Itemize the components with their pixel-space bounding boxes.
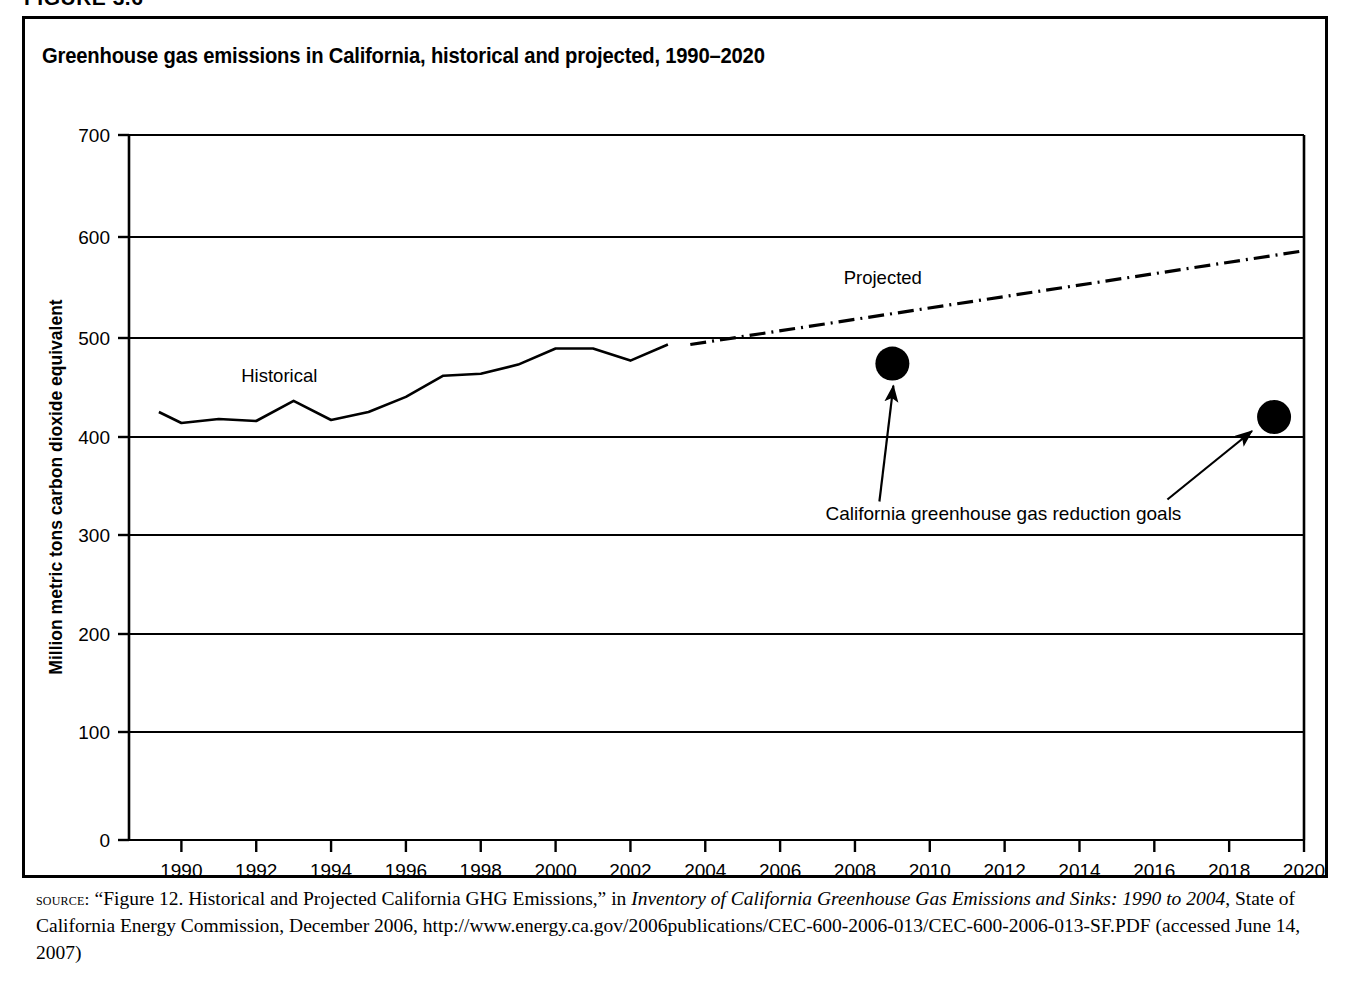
y-tick-label: 700: [78, 125, 110, 146]
y-tick-label: 500: [78, 328, 110, 349]
y-tick-label: 600: [78, 227, 110, 248]
goal-marker-2010: [875, 347, 909, 381]
y-tick-labels: 700 600 500 400 300 200 100 0: [78, 125, 110, 851]
y-tick-label: 100: [78, 722, 110, 743]
x-tick-label: 2002: [609, 860, 651, 881]
x-tick-label: 2004: [684, 860, 727, 881]
y-axis-title: Million metric tons carbon dioxide equiv…: [46, 299, 66, 675]
y-tick-label: 300: [78, 525, 110, 546]
x-tick-label: 1998: [460, 860, 502, 881]
chart-plot: Million metric tons carbon dioxide equiv…: [0, 0, 1352, 984]
x-tick-label: 2018: [1208, 860, 1250, 881]
series-projected-line: [690, 251, 1304, 345]
source-text-part1: “Figure 12. Historical and Projected Cal…: [90, 888, 632, 909]
series-historical-line: [159, 345, 668, 424]
goal-marker-2020: [1257, 400, 1291, 434]
x-tick-label: 2014: [1058, 860, 1101, 881]
series-label-historical: Historical: [241, 365, 317, 386]
y-tick-marks: [118, 135, 129, 840]
plot-frame: [129, 135, 1304, 840]
x-tick-label: 2012: [983, 860, 1025, 881]
x-tick-label: 2000: [534, 860, 576, 881]
x-tick-label: 1994: [310, 860, 353, 881]
gridlines: [129, 135, 1304, 840]
x-tick-marks: [181, 840, 1304, 852]
y-tick-label: 200: [78, 624, 110, 645]
annotation-arrow-left: [879, 386, 893, 502]
source-note: source: “Figure 12. Historical and Proje…: [36, 886, 1336, 967]
x-tick-label: 1996: [385, 860, 427, 881]
annotation-reduction-goals: California greenhouse gas reduction goal…: [825, 503, 1181, 524]
x-tick-label: 2020: [1283, 860, 1325, 881]
x-tick-label: 2006: [759, 860, 801, 881]
x-tick-label: 1992: [235, 860, 277, 881]
x-tick-label: 1990: [160, 860, 202, 881]
y-tick-label: 0: [99, 830, 110, 851]
y-tick-label: 400: [78, 427, 110, 448]
source-keyword: source:: [36, 889, 90, 909]
series-label-projected: Projected: [844, 267, 922, 288]
annotation-arrow-right: [1167, 431, 1252, 500]
x-tick-label: 2008: [834, 860, 876, 881]
x-tick-label: 2010: [909, 860, 951, 881]
source-italic-title: Inventory of California Greenhouse Gas E…: [631, 888, 1225, 909]
x-tick-label: 2016: [1133, 860, 1175, 881]
x-tick-labels: 1990199219941996199820002002200420062008…: [160, 860, 1325, 881]
